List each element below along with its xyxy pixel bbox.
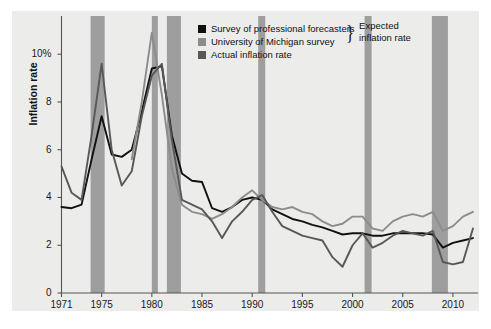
legend-swatch-survey-professional [198, 25, 206, 33]
x-tick-label: 1980 [132, 299, 172, 310]
legend-item-label: Survey of professional forecasters [211, 22, 355, 35]
recession-band-1 [152, 16, 158, 293]
series-line [62, 66, 473, 247]
legend-item: Survey of professional forecasters [198, 22, 355, 35]
y-tick-label: 6 [26, 144, 52, 155]
legend-item: University of Michigan survey [198, 35, 355, 48]
x-tick-label: 1995 [282, 299, 322, 310]
x-tick-label: 2010 [433, 299, 473, 310]
legend-swatch-michigan [198, 38, 206, 46]
chart-figure: Inflation rate 10%86420 1971197519801985… [0, 0, 491, 329]
chart-legend: Survey of professional forecastersUniver… [198, 22, 355, 61]
legend-item-label: Actual inflation rate [211, 48, 292, 61]
legend-brace-group: } Expected inflation rate [345, 20, 411, 44]
legend-swatch-actual [198, 51, 206, 59]
y-tick-label: 10% [26, 48, 52, 59]
legend-item: Actual inflation rate [198, 48, 355, 61]
x-tick-label: 1985 [182, 299, 222, 310]
x-tick-label: 2000 [333, 299, 373, 310]
y-tick-label: 0 [26, 287, 52, 298]
recession-band-4 [365, 16, 372, 293]
x-tick-label: 1990 [232, 299, 272, 310]
y-tick-label: 8 [26, 96, 52, 107]
x-tick-label: 2005 [383, 299, 423, 310]
y-tick-label: 2 [26, 239, 52, 250]
legend-brace-label-line2: inflation rate [359, 32, 411, 44]
legend-brace-label: Expected inflation rate [359, 20, 411, 44]
y-tick-label: 4 [26, 191, 52, 202]
legend-item-label: University of Michigan survey [211, 35, 335, 48]
series-line [62, 64, 473, 267]
legend-brace-label-line1: Expected [359, 20, 411, 32]
x-tick-label: 1971 [42, 299, 82, 310]
data-series-lines [62, 33, 473, 267]
x-tick-label: 1975 [82, 299, 122, 310]
curly-brace-icon: } [346, 22, 354, 43]
